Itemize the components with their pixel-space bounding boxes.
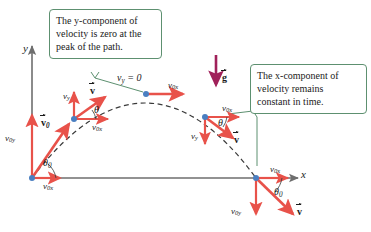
launch-v0-v: v: [41, 117, 46, 128]
vectors-landing: [253, 175, 293, 214]
label-launch-v0y: v0y: [5, 133, 15, 143]
landing-theta-sub: 0: [279, 191, 283, 199]
rising-vy-sub: y: [67, 94, 70, 101]
rising-v0x-sub: 0x: [96, 125, 102, 132]
gravity-label: g: [222, 72, 227, 83]
label-landing-theta0: θ0: [274, 186, 283, 199]
label-descending-v: v: [234, 134, 239, 145]
label-launch-theta0: θ0: [43, 157, 52, 170]
label-landing-v0x: v0x: [270, 164, 280, 174]
landing-v0y-sub: 0y: [235, 209, 241, 216]
descending-theta: θ: [218, 117, 223, 128]
callout-horizontal-line3: constant in time.: [257, 95, 361, 108]
vectors-peak: [143, 91, 183, 97]
label-descending-theta: θ: [218, 117, 223, 128]
label-descending-v0x: v0x: [222, 103, 232, 113]
label-rising-v: v: [90, 85, 95, 96]
gravity-symbol: g: [222, 72, 227, 83]
callout-horizontal: The x-component of velocity remains cons…: [250, 64, 367, 114]
projectile-motion-figure: The y-component of velocity is zero at t…: [0, 0, 371, 232]
trajectory-path: [32, 103, 256, 178]
label-launch-v0: v0: [41, 117, 50, 130]
launch-v0-sub: 0: [46, 122, 50, 130]
label-peak-v0x: v0x: [168, 80, 178, 90]
landing-v0x-sub: 0x: [274, 167, 280, 174]
launch-v0x-sub: 0x: [47, 184, 53, 191]
callout-horizontal-leader: [228, 111, 261, 166]
label-landing-v0y: v0y: [231, 206, 241, 216]
callout-peak-line1: The y-component of: [56, 14, 156, 27]
label-rising-v0x: v0x: [92, 122, 102, 132]
axis-x-label: x: [301, 168, 306, 180]
label-landing-v: v: [297, 206, 302, 217]
peak-vy-zero-label: vy = 0: [117, 72, 141, 85]
callout-peak-line3: peak of the path.: [56, 40, 156, 53]
launch-theta-sub: 0: [48, 162, 52, 170]
landing-v-v: v: [297, 206, 302, 217]
vectors-rising: [71, 92, 108, 122]
descending-v0x-sub: 0x: [226, 106, 232, 113]
launch-v0y-sub: 0y: [9, 136, 15, 143]
peak-v0x-sub: 0x: [172, 83, 178, 90]
label-rising-theta: θ: [94, 104, 99, 115]
label-rising-vy: vy: [63, 91, 70, 101]
descending-v-v: v: [234, 134, 239, 145]
axis-y-label: y: [23, 42, 28, 54]
peak-vy-eq: = 0: [125, 72, 142, 83]
callout-peak: The y-component of velocity is zero at t…: [49, 9, 162, 59]
descending-vy-sub: y: [195, 134, 198, 141]
label-descending-vy: vy: [191, 131, 198, 141]
callout-horizontal-line2: velocity remains: [257, 82, 361, 95]
rising-v-v: v: [90, 85, 95, 96]
rising-theta: θ: [94, 104, 99, 115]
label-launch-v0x: v0x: [43, 181, 53, 191]
callout-peak-line2: velocity is zero at the: [56, 27, 156, 40]
callout-horizontal-line1: The x-component of: [257, 69, 361, 82]
